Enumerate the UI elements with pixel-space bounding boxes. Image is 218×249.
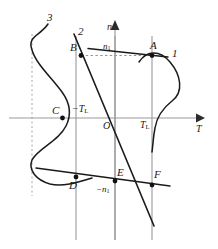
minus-t-l-label-sub: L [84,107,88,114]
point-marker-a [150,53,155,58]
n1-label-sub: 1 [108,45,111,51]
point-label-b: B [70,42,77,53]
minus-t-l-label: −TL [72,104,88,115]
n-axis-label: n [107,22,112,32]
minus-t-l-label-main: −T [72,103,84,114]
curve-2-label: 2 [78,26,84,37]
point-marker-f [150,183,155,188]
point-marker-c [60,116,65,121]
point-label-c: C [52,105,59,116]
minus-n1-label-sub: 1 [107,188,110,194]
figure-canvas: 3 2 1 B A C D E F O TL −TL n1 −n1 n T [0,0,218,249]
t-axis-arrow-icon [196,113,205,122]
n1-label: n1 [103,42,111,51]
point-label-f: F [154,169,161,180]
point-marker-e [113,179,118,184]
curve-1-path [139,53,180,152]
minus-n1-label: −n1 [96,185,110,194]
point-label-a: A [150,40,157,51]
minus-n1-label-main: −n [96,184,107,194]
curve-1-label-3: 3 [47,12,53,23]
t-axis-label: T [196,124,202,134]
curve-1-label: 1 [172,48,178,59]
point-marker-b [79,53,84,58]
t-l-label-sub: L [146,123,150,130]
point-label-d: D [69,180,77,191]
point-label-e: E [117,167,124,178]
origin-label: O [103,121,110,131]
t-l-label: TL [140,120,150,131]
